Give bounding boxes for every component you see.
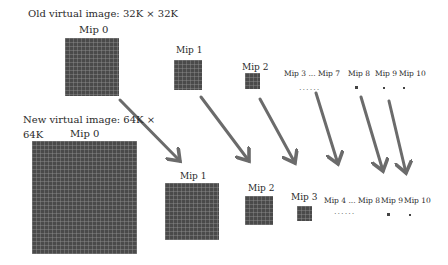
new-mip1-texture (165, 183, 219, 240)
old-mip8-texture (355, 86, 358, 89)
old-mip9-label: Mip 9 (375, 70, 397, 78)
old-mip3-7-ellipsis: ...... (299, 84, 320, 92)
arrow-mip7-to-mip8 (316, 93, 338, 164)
old-mip10-label: Mip 10 (399, 70, 426, 78)
new-mip0-label: Mip 0 (70, 129, 99, 139)
old-mip10-texture (403, 87, 405, 89)
old-mip3-7-label: Mip 3 ... Mip 7 (284, 70, 340, 78)
old-mip2-texture (245, 73, 260, 89)
arrow-mip9-to-mip10 (389, 101, 406, 173)
arrow-mip1-to-mip2 (201, 97, 249, 161)
old-mip2-label: Mip 2 (242, 63, 268, 72)
new-mip0-texture (32, 141, 137, 254)
new-mip9-label: Mip 9 (381, 197, 403, 205)
new-image-title-line1: New virtual image: 64K × (23, 114, 155, 127)
old-mip1-label: Mip 1 (176, 46, 202, 55)
old-image-title: Old virtual image: 32K × 32K (28, 8, 178, 21)
old-mip8-label: Mip 8 (348, 70, 370, 78)
old-mip9-texture (383, 87, 385, 89)
new-mip3-texture (297, 206, 312, 221)
new-mip10-texture (409, 214, 411, 216)
new-mip9-texture (387, 213, 390, 216)
arrow-mip8-to-mip9 (361, 97, 383, 171)
new-mip4-8-ellipsis: ...... (334, 208, 355, 216)
new-image-title-line2: 64K (23, 129, 43, 142)
old-mip0-label: Mip 0 (79, 25, 108, 35)
new-mip2-texture (245, 196, 273, 225)
new-mip2-label: Mip 2 (248, 184, 274, 193)
arrow-mip2-to-mip3 (260, 99, 295, 163)
new-mip3-label: Mip 3 (291, 193, 317, 202)
old-mip0-texture (65, 38, 119, 96)
new-mip10-label: Mip 10 (404, 197, 431, 205)
new-mip4-8-label: Mip 4 ... Mip 8 (324, 197, 380, 205)
new-mip1-label: Mip 1 (180, 172, 206, 181)
old-mip1-texture (174, 60, 202, 90)
